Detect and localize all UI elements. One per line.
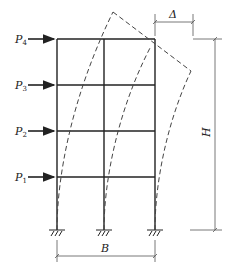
load-arrows [28,39,54,177]
drift-label: Δ [168,8,177,21]
load-label-p3: P3 [14,79,27,93]
load-label-p1: P1 [14,171,27,185]
fixed-supports [49,230,163,236]
height-label: H [200,127,213,138]
deflected-shape [57,12,191,230]
width-label: B [100,242,109,255]
frame-columns [57,39,155,230]
frame-diagram: P4 P3 P2 P1 B Δ H [0,0,230,274]
load-label-p4: P4 [14,33,27,47]
frame-beams [57,39,155,177]
load-label-p2: P2 [14,125,27,139]
